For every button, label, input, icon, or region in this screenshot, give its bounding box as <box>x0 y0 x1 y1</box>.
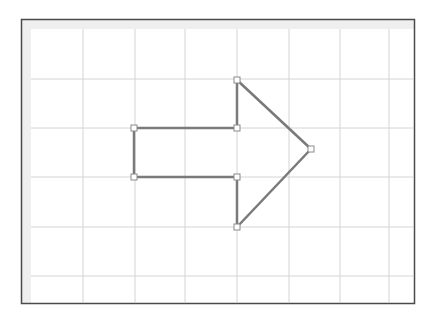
vertex-handle-shaft-bottom-right[interactable] <box>234 174 240 180</box>
top-margin-strip <box>21 19 415 29</box>
vertex-handle-shaft-bottom-left[interactable] <box>131 174 137 180</box>
canvas-background <box>21 19 415 304</box>
vertex-handle-head-top[interactable] <box>234 77 240 83</box>
vertex-handle-head-bottom[interactable] <box>234 224 240 230</box>
vertex-handle-shaft-top-right[interactable] <box>234 125 240 131</box>
left-margin-strip <box>21 19 31 304</box>
drawing-canvas[interactable] <box>0 0 432 317</box>
vertex-handle-shaft-top-left[interactable] <box>131 125 137 131</box>
canvas-surface[interactable] <box>0 0 432 317</box>
vertex-handle-arrow-tip[interactable] <box>308 146 314 152</box>
